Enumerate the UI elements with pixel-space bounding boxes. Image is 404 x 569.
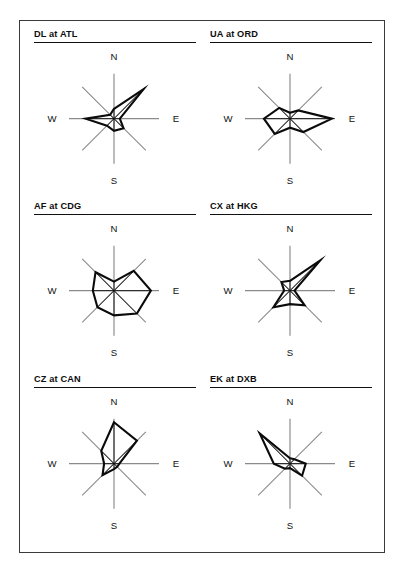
rose-canvas: NESW — [26, 44, 202, 201]
panel-title: AF at CDG — [34, 201, 198, 212]
panel-title: CZ at CAN — [34, 374, 198, 385]
rose-data-polygon — [264, 108, 332, 134]
panel-title-rule — [210, 214, 372, 215]
wind-rose-ua-ord: NESW — [202, 44, 378, 201]
panel-title-rule — [34, 387, 196, 388]
figure-frame: DL at ATL NESW UA at ORD NESW AF at CDG … — [19, 20, 385, 553]
rose-canvas: NESW — [202, 216, 378, 373]
panel-cx-hkg: CX at HKG NESW — [202, 201, 378, 373]
rose-spoke — [96, 273, 114, 291]
panel-grid: DL at ATL NESW UA at ORD NESW AF at CDG … — [20, 21, 384, 552]
compass-label-north: N — [111, 396, 118, 407]
panel-title: UA at ORD — [210, 29, 374, 40]
panel-title-rule — [34, 214, 196, 215]
compass-label-west: W — [223, 285, 233, 296]
rose-spoke — [107, 119, 114, 126]
compass-label-west: W — [223, 458, 233, 469]
compass-label-west: W — [223, 113, 233, 124]
wind-rose-cz-can: NESW — [26, 389, 202, 546]
compass-label-east: E — [173, 113, 179, 124]
compass-label-east: E — [349, 458, 355, 469]
panel-title: EK at DXB — [210, 374, 374, 385]
panel-title: CX at HKG — [210, 201, 374, 212]
compass-label-north: N — [287, 51, 294, 62]
compass-label-south: S — [111, 520, 117, 531]
panel-af-cdg: AF at CDG NESW — [26, 201, 202, 373]
rose-spoke — [114, 291, 137, 314]
wind-rose-ek-dxb: NESW — [202, 389, 378, 546]
wind-rose-af-cdg: NESW — [26, 216, 202, 373]
compass-label-west: W — [47, 113, 57, 124]
compass-label-west: W — [47, 285, 57, 296]
rose-canvas: NESW — [202, 44, 378, 201]
rose-canvas: NESW — [26, 216, 202, 373]
wind-rose-cx-hkg: NESW — [202, 216, 378, 373]
rose-data-polygon — [101, 422, 137, 475]
compass-label-north: N — [287, 223, 294, 234]
rose-canvas: NESW — [26, 389, 202, 546]
panel-title-rule — [210, 42, 372, 43]
compass-label-north: N — [111, 51, 118, 62]
compass-label-east: E — [349, 285, 355, 296]
wind-rose-dl-atl: NESW — [26, 44, 202, 201]
panel-title: DL at ATL — [34, 29, 198, 40]
compass-label-south: S — [287, 175, 293, 186]
compass-label-north: N — [111, 223, 118, 234]
panel-dl-atl: DL at ATL NESW — [26, 29, 202, 201]
compass-label-east: E — [173, 458, 179, 469]
rose-spoke — [97, 291, 114, 308]
compass-label-west: W — [47, 458, 57, 469]
rose-canvas: NESW — [202, 389, 378, 546]
panel-title-rule — [210, 387, 372, 388]
rose-data-polygon — [86, 89, 144, 131]
compass-label-south: S — [287, 347, 293, 358]
compass-label-south: S — [287, 520, 293, 531]
panel-ek-dxb: EK at DXB NESW — [202, 374, 378, 546]
panel-cz-can: CZ at CAN NESW — [26, 374, 202, 546]
panel-title-rule — [34, 42, 196, 43]
compass-label-north: N — [287, 396, 294, 407]
compass-label-east: E — [173, 285, 179, 296]
compass-label-south: S — [111, 175, 117, 186]
compass-label-east: E — [349, 113, 355, 124]
panel-ua-ord: UA at ORD NESW — [202, 29, 378, 201]
compass-label-south: S — [111, 347, 117, 358]
